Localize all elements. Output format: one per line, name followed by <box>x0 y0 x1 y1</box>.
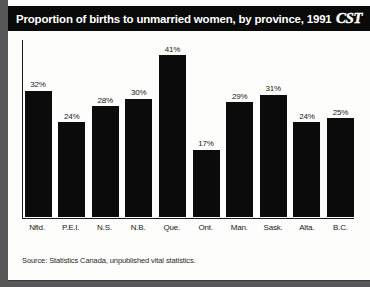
bar-group: 24% <box>293 40 320 217</box>
bar-group: 29% <box>226 40 253 217</box>
bar-group: 31% <box>260 40 287 217</box>
bar-value-label: 29% <box>232 92 247 101</box>
bar <box>226 102 253 216</box>
x-axis-tick-label: N.S. <box>91 223 118 232</box>
x-axis-tick-label: Sask. <box>260 223 287 232</box>
x-axis-tick-label: P.E.I. <box>57 223 84 232</box>
bar-value-label: 25% <box>333 108 348 117</box>
bar-group: 24% <box>58 40 85 217</box>
source-note: Source: Statistics Canada, unpublished v… <box>22 256 196 265</box>
bar <box>25 91 52 217</box>
plot-area: 32%24%28%30%41%17%29%31%24%25% <box>22 40 354 219</box>
bar-group: 25% <box>327 40 354 217</box>
x-axis-tick-label: Que. <box>158 223 185 232</box>
bar-group: 28% <box>92 40 119 217</box>
bar <box>58 122 85 216</box>
bar <box>260 95 287 217</box>
bar-group: 30% <box>125 40 152 217</box>
bar-group: 41% <box>159 40 186 217</box>
bar <box>193 150 220 217</box>
bar <box>159 55 186 216</box>
x-axis-tick-label: N.B. <box>125 223 152 232</box>
x-axis-labels: Nfld.P.E.I.N.S.N.B.Que.Ont.Man.Sask.Alta… <box>24 223 355 232</box>
bar-value-label: 31% <box>266 84 281 93</box>
bar-value-label: 32% <box>30 80 45 89</box>
page-title: Proportion of births to unmarried women,… <box>16 13 332 25</box>
x-axis-tick-label: Nfld. <box>24 223 51 232</box>
bar-value-label: 30% <box>131 88 146 97</box>
cst-logo: CST <box>336 11 364 26</box>
bar <box>293 122 320 216</box>
bar-group: 17% <box>193 40 220 217</box>
bar-series: 32%24%28%30%41%17%29%31%24%25% <box>25 40 355 217</box>
chart-header: Proportion of births to unmarried women,… <box>8 6 370 31</box>
x-axis-tick-label: Alta. <box>293 223 320 232</box>
bar <box>92 106 119 216</box>
bar-group: 32% <box>25 40 52 217</box>
bar-value-label: 24% <box>64 112 79 121</box>
x-axis-tick-label: Man. <box>226 223 253 232</box>
bar-value-label: 24% <box>299 112 314 121</box>
bar-value-label: 17% <box>198 139 213 148</box>
x-axis-tick-label: B.C. <box>327 223 354 232</box>
bar <box>125 99 152 217</box>
bar-value-label: 28% <box>98 96 113 105</box>
bar <box>327 118 354 216</box>
x-axis-tick-label: Ont. <box>192 223 219 232</box>
bar-value-label: 41% <box>165 45 180 54</box>
